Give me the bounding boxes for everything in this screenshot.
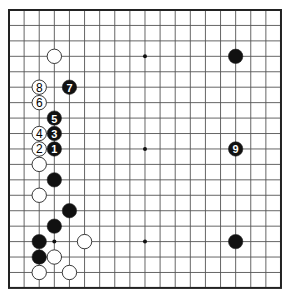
stone-disc (32, 157, 46, 171)
black-stone: 1 (47, 142, 61, 156)
move-number: 9 (233, 143, 239, 155)
black-stone (47, 173, 61, 187)
stone-disc (32, 250, 46, 264)
white-stone (47, 49, 61, 63)
stone-disc (47, 49, 61, 63)
black-stone: 5 (47, 111, 61, 125)
black-stone: 7 (62, 80, 76, 94)
white-stone: 6 (32, 95, 46, 110)
stone-disc (62, 204, 76, 218)
white-stone: 2 (32, 142, 46, 157)
black-stone (32, 250, 46, 264)
black-stone: 3 (47, 126, 61, 140)
move-number: 2 (36, 142, 43, 156)
stone-disc (32, 234, 46, 248)
white-stone (47, 250, 61, 264)
black-stone (47, 219, 61, 233)
stone-disc (32, 265, 46, 279)
stone-disc (77, 234, 91, 248)
move-number: 8 (36, 81, 43, 95)
move-number: 1 (51, 143, 57, 155)
go-board: 876543219 (0, 0, 284, 302)
white-stone (32, 157, 46, 171)
white-stone (77, 234, 91, 248)
star-point (143, 54, 147, 58)
stone-disc (228, 49, 242, 63)
white-stone (62, 265, 76, 279)
white-stone (32, 188, 46, 202)
move-number: 6 (36, 96, 43, 110)
move-number: 5 (51, 113, 57, 125)
black-stone (32, 234, 46, 248)
black-stone: 9 (228, 142, 242, 156)
star-point (143, 147, 147, 151)
black-stone (228, 234, 242, 248)
star-point (52, 240, 56, 244)
stone-disc (47, 219, 61, 233)
stone-disc (228, 234, 242, 248)
stone-disc (32, 188, 46, 202)
black-stone (62, 204, 76, 218)
black-stone (228, 49, 242, 63)
stone-disc (62, 265, 76, 279)
white-stone (32, 265, 46, 279)
stone-disc (47, 173, 61, 187)
move-number: 4 (36, 127, 43, 141)
move-number: 7 (66, 82, 72, 94)
move-number: 3 (51, 128, 57, 140)
white-stone: 8 (32, 80, 46, 95)
white-stone: 4 (32, 126, 46, 141)
stone-disc (47, 250, 61, 264)
star-point (143, 240, 147, 244)
